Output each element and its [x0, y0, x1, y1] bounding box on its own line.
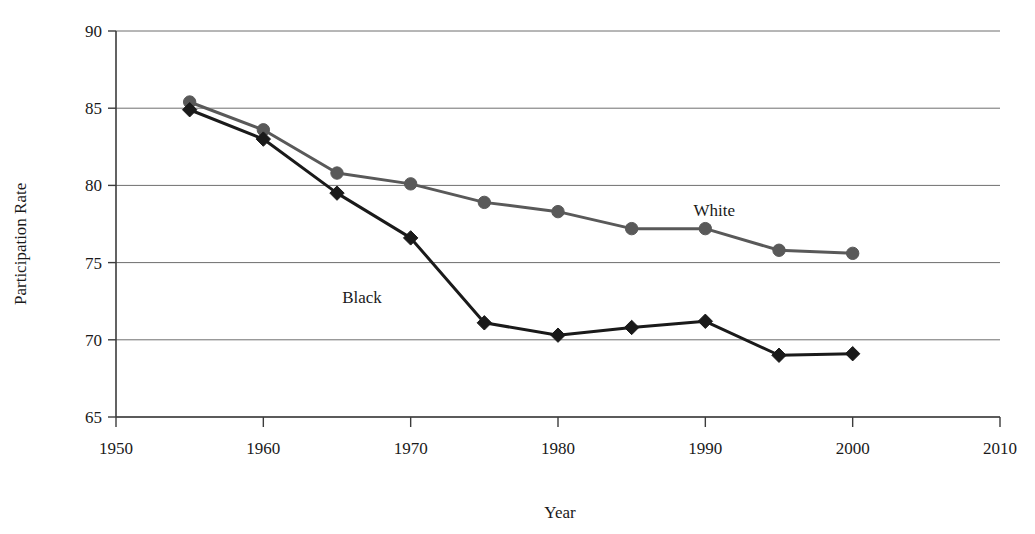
marker-white-1970 — [404, 178, 416, 190]
data-series-group — [182, 96, 859, 363]
x-tick-label-2000: 2000 — [836, 439, 870, 458]
y-tick-label-90: 90 — [85, 22, 102, 41]
y-tick-label-80: 80 — [85, 176, 102, 195]
x-tick-label-1970: 1970 — [394, 439, 428, 458]
y-tick-label-75: 75 — [85, 254, 102, 273]
y-tick-labels-group: 657075808590 — [85, 22, 102, 427]
marker-white-1990 — [699, 222, 711, 234]
marker-black-1985 — [624, 320, 638, 334]
series-label-white: White — [693, 201, 735, 220]
marker-black-2000 — [845, 347, 859, 361]
y-tick-label-70: 70 — [85, 331, 102, 350]
marker-white-1995 — [773, 244, 785, 256]
series-white — [183, 96, 858, 260]
x-tick-label-2010: 2010 — [983, 439, 1017, 458]
marker-white-2000 — [846, 247, 858, 259]
x-tick-label-1950: 1950 — [99, 439, 133, 458]
x-tick-labels-group: 1950196019701980199020002010 — [99, 439, 1017, 458]
x-tick-label-1960: 1960 — [246, 439, 280, 458]
x-axis-title: Year — [544, 503, 576, 522]
figure-participation-rate-by-race: 657075808590 195019601970198019902000201… — [0, 0, 1035, 534]
y-tick-label-65: 65 — [85, 408, 102, 427]
series-line-white — [190, 102, 853, 253]
series-annotations-group: WhiteBlack — [342, 201, 735, 306]
marker-black-1990 — [698, 314, 712, 328]
x-tick-label-1990: 1990 — [688, 439, 722, 458]
marker-black-1995 — [772, 348, 786, 362]
marker-white-1980 — [552, 205, 564, 217]
gridlines-group — [116, 31, 1000, 417]
marker-white-1985 — [625, 222, 637, 234]
axes-group — [108, 31, 1000, 427]
x-tick-label-1980: 1980 — [541, 439, 575, 458]
marker-white-1965 — [331, 167, 343, 179]
series-label-black: Black — [342, 288, 382, 307]
y-tick-label-85: 85 — [85, 99, 102, 118]
line-chart: 657075808590 195019601970198019902000201… — [0, 0, 1035, 534]
marker-white-1975 — [478, 196, 490, 208]
y-axis-title: Participation Rate — [11, 183, 30, 305]
